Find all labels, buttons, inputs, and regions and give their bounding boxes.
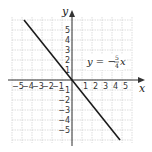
y-tick-label: −4 [58,116,70,125]
x-tick-label: 5 [123,82,128,91]
y-tick-label: 2 [65,56,70,65]
y-tick-label: −2 [58,96,70,105]
equation-lhs: y = − [86,56,116,67]
equation-numerator: 5 [115,54,119,61]
x-tick-label: 3 [103,82,108,91]
x-tick-label: 2 [93,82,98,91]
y-tick-label: 5 [65,26,70,35]
equation-variable: x [120,56,126,67]
equation-annotation: y = − 5 4 x [86,54,126,70]
x-axis-label: x [139,82,146,95]
y-tick-label: −3 [58,106,70,115]
y-tick-label: 3 [65,46,70,55]
y-axis-label: y [61,5,69,18]
equation-denominator: 4 [115,62,119,69]
y-axis-arrow-icon [69,10,75,17]
coordinate-plane: x y −5−4−3−2−11234554321−1−2−3−4−5 y = −… [0,0,152,152]
y-tick-label: −1 [58,86,70,95]
y-tick-label: 4 [65,36,70,45]
y-tick-label: −5 [58,126,70,135]
x-tick-label: 1 [83,82,88,91]
x-tick-label: 4 [113,82,118,91]
